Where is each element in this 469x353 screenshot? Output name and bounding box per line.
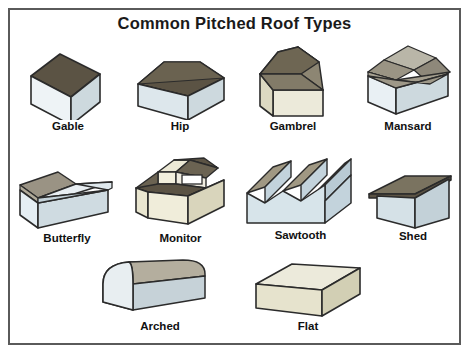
roof-label-hip: Hip [130, 120, 230, 132]
roof-label-mansard: Mansard [358, 120, 458, 132]
roof-figure-hip: Hip [130, 42, 230, 137]
arched-illustration [95, 258, 225, 326]
roof-figure-butterfly: Butterfly [12, 160, 122, 252]
roof-label-gambrel: Gambrel [243, 120, 343, 132]
page-title: Common Pitched Roof Types [0, 14, 469, 33]
roof-figure-gable: Gable [18, 42, 118, 137]
roof-label-sawtooth: Sawtooth [243, 229, 358, 241]
gable-illustration [18, 42, 118, 120]
butterfly-illustration [12, 160, 122, 235]
roof-figure-arched: Arched [95, 258, 225, 338]
roof-figure-shed: Shed [363, 168, 463, 252]
roof-types-poster: Common Pitched Roof Types Gable Hip [0, 0, 469, 353]
mansard-illustration [358, 36, 458, 120]
roof-figure-mansard: Mansard [358, 36, 458, 138]
hip-illustration [130, 42, 230, 120]
gambrel-illustration [243, 38, 343, 120]
flat-illustration [248, 258, 368, 326]
roof-label-monitor: Monitor [128, 232, 233, 244]
roof-label-butterfly: Butterfly [12, 232, 122, 244]
roof-label-flat: Flat [248, 320, 368, 332]
roof-label-shed: Shed [363, 230, 463, 242]
roof-label-gable: Gable [18, 120, 118, 132]
roof-figure-sawtooth: Sawtooth [243, 155, 358, 252]
roof-figure-flat: Flat [248, 258, 368, 338]
roof-figure-monitor: Monitor [128, 150, 233, 252]
sawtooth-illustration [243, 155, 358, 235]
shed-illustration [363, 168, 463, 236]
roof-label-arched: Arched [95, 320, 225, 332]
monitor-illustration [128, 150, 233, 234]
roof-figure-gambrel: Gambrel [243, 38, 343, 138]
